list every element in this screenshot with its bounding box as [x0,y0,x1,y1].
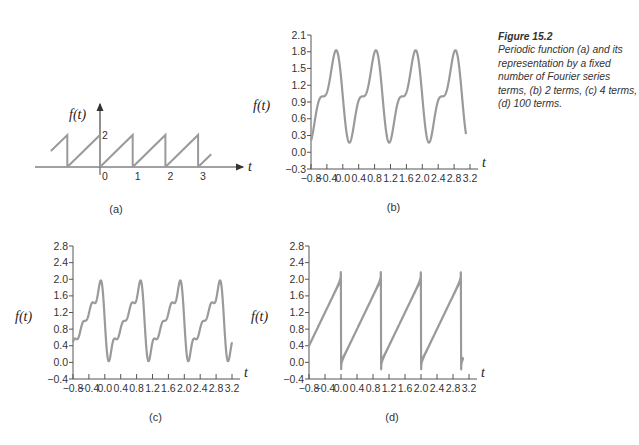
x-tick-label: 0.8 [367,172,382,184]
y-tick-label: 2 [102,129,108,141]
caption-title: Figure 15.2 [498,30,638,43]
x-tick-label: 0.0 [97,382,112,394]
x-tick-label: 0 [102,170,108,182]
fourier-curve [73,280,232,361]
x-tick-label: 2.8 [446,382,461,394]
panel-a: f(t) t 2 0123 (a) [35,104,253,215]
y-tick-label: −0.4 [47,373,68,385]
x-tick-label: 1.2 [382,382,397,394]
y-tick-label: 0.9 [291,96,306,108]
y-tick-label: 2.8 [289,240,304,252]
x-tick-label: 3.2 [225,382,240,394]
y-tick-label: 1.2 [291,79,306,91]
y-tick-label: 2.1 [291,29,306,41]
panel-label: (b) [387,201,400,213]
x-tick-label: 2.0 [415,172,430,184]
fourier-curve [309,272,463,369]
y-tick-label: −0.4 [283,373,304,385]
x-tick-label: 0.0 [334,382,349,394]
x-tick-label: 2.0 [177,382,192,394]
x-tick-label: 3.2 [463,172,478,184]
x-tick-label: −0.4 [315,382,336,394]
x-tick-label: 2.4 [193,382,208,394]
x-tick-label: 1 [135,170,141,182]
y-tick-label: 1.2 [289,306,304,318]
panel-label: (a) [109,203,122,215]
y-tick-label: −0.3 [285,163,306,175]
x-tick-label: 0.8 [129,382,144,394]
y-axis-label: f(t) [15,309,32,325]
y-tick-label: 0.0 [53,356,68,368]
x-tick-label: 3.2 [462,382,477,394]
y-tick-label: 0.3 [291,129,306,141]
y-tick-label: 1.6 [289,289,304,301]
y-tick-label: 2.8 [53,240,68,252]
x-tick-label: 2 [167,170,173,182]
caption-text: Periodic function (a) and its representa… [498,44,637,109]
x-axis-label: t [244,365,249,380]
y-axis-label: f(t) [251,309,268,325]
sawtooth-curve [51,135,211,167]
x-tick-label: 2.8 [209,382,224,394]
x-tick-label: 1.6 [161,382,176,394]
x-tick-label: 0.4 [113,382,128,394]
y-tick-label: 1.2 [53,306,68,318]
x-tick-label: 2.0 [414,382,429,394]
y-tick-label: 0.4 [53,339,68,351]
y-axis-label: f(t) [69,107,86,123]
fourier-curve [311,50,466,142]
y-tick-label: 0.6 [291,112,306,124]
panel-c: −0.8−0.40.00.40.81.21.62.02.42.83.2−0.40… [15,240,249,424]
y-tick-label: 0.4 [289,339,304,351]
y-tick-label: 2.4 [289,256,304,268]
x-tick-label: 1.2 [145,382,160,394]
y-tick-label: 1.6 [53,289,68,301]
x-tick-label: 0.4 [351,172,366,184]
panel-d: −0.8−0.40.00.40.81.21.62.02.42.83.2−0.40… [251,240,486,424]
x-tick-label: 2.4 [430,382,445,394]
figure-caption: Figure 15.2 Periodic function (a) and it… [498,30,638,110]
x-tick-label: 1.2 [383,172,398,184]
panel-b: −0.8−0.40.00.40.81.21.62.02.42.83.2−0.30… [253,29,487,214]
panel-label: (c) [149,411,162,423]
y-axis-label: f(t) [253,98,270,114]
x-tick-label: 0.0 [335,172,350,184]
x-tick-label: 2.8 [447,172,462,184]
y-tick-label: 1.5 [291,62,306,74]
x-tick-label: 3 [200,170,206,182]
y-tick-label: 2.0 [53,273,68,285]
x-tick-label: 0.4 [350,382,365,394]
x-tick-label: −0.4 [79,382,100,394]
y-tick-label: 2.0 [289,273,304,285]
y-tick-label: 0.0 [289,356,304,368]
x-axis-label: t [481,365,486,380]
y-tick-label: 2.4 [53,256,68,268]
y-tick-label: 0.8 [289,323,304,335]
x-tick-label: 1.6 [398,382,413,394]
x-tick-label: −0.4 [317,172,338,184]
x-tick-label: 0.8 [366,382,381,394]
x-axis-label: t [482,155,487,170]
y-tick-label: 1.8 [291,45,306,57]
x-tick-label: 1.6 [399,172,414,184]
panel-label: (d) [385,411,398,423]
y-tick-label: 0.8 [53,323,68,335]
x-tick-label: 2.4 [431,172,446,184]
y-tick-label: 0.0 [291,146,306,158]
x-axis-label: t [248,159,253,174]
